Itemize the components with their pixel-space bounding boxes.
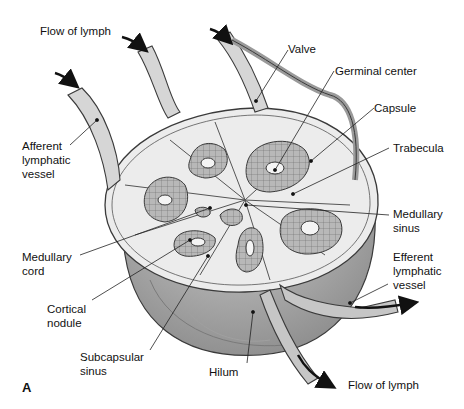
label-medullary-sinus: Medullary sinus	[393, 207, 443, 235]
panel-letter: A	[22, 380, 31, 395]
label-cortical-nodule: Cortical nodule	[47, 302, 86, 330]
label-efferent-vessel: Efferent lymphatic vessel	[393, 250, 442, 292]
label-hilum: Hilum	[209, 365, 238, 379]
label-valve: Valve	[288, 42, 316, 56]
label-capsule: Capsule	[374, 101, 416, 115]
label-afferent-vessel: Afferent lymphatic vessel	[22, 139, 71, 181]
label-flow-in: Flow of lymph	[40, 24, 111, 38]
label-medullary-cord: Medullary cord	[22, 250, 72, 278]
diagram-art	[0, 0, 464, 409]
label-germinal-center: Germinal center	[335, 64, 417, 78]
label-subcapsular-sinus: Subcapsular sinus	[80, 350, 144, 378]
lymph-node-diagram: Flow of lymph Afferent lymphatic vessel …	[0, 0, 464, 409]
label-flow-out: Flow of lymph	[348, 378, 419, 392]
label-trabecula: Trabecula	[393, 141, 444, 155]
